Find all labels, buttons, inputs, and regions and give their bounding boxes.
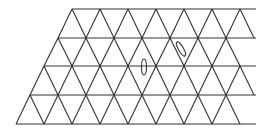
lattice-edge xyxy=(100,38,114,66)
lattice-edge xyxy=(226,95,240,124)
lattice-edge xyxy=(156,38,170,66)
lattice-edge xyxy=(72,95,86,124)
lattice-edge xyxy=(212,95,226,124)
lattice-edge xyxy=(184,95,198,124)
defect-ellipse xyxy=(175,41,187,57)
lattice-edge xyxy=(114,66,128,95)
lattice-edge xyxy=(240,66,254,95)
triangular-lattice-diagram xyxy=(0,0,272,134)
lattice-edge xyxy=(170,95,184,124)
lattice-edge xyxy=(128,9,142,38)
lattice-edge xyxy=(114,38,128,66)
lattice-edge xyxy=(226,66,240,95)
lattice-edge xyxy=(212,38,226,66)
lattice-edge xyxy=(30,66,44,95)
lattice-edge xyxy=(72,38,86,66)
lattice-edge xyxy=(226,38,240,66)
lattice-edge xyxy=(184,66,198,95)
lattice-edge xyxy=(72,66,86,95)
lattice-edge xyxy=(198,66,212,95)
lattice-edge xyxy=(100,66,114,95)
lattice-edge xyxy=(212,9,226,38)
lattice-edge xyxy=(58,66,72,95)
lattice-edge xyxy=(240,9,254,38)
lattice-edge xyxy=(100,9,114,38)
lattice-edge xyxy=(114,95,128,124)
lattice-edge xyxy=(58,9,72,38)
lattice-edge xyxy=(170,66,184,95)
lattice-edge xyxy=(156,9,170,38)
lattice-edge xyxy=(184,38,198,66)
lattice-edge xyxy=(142,9,156,38)
lattice-edge xyxy=(58,95,72,124)
lattice-edge xyxy=(198,38,212,66)
lattice-edge xyxy=(212,66,226,95)
lattice-edge xyxy=(142,66,156,95)
lattice-edge xyxy=(58,38,72,66)
lattice-edge xyxy=(142,38,156,66)
lattice-edge xyxy=(156,66,170,95)
lattice-edge xyxy=(198,95,212,124)
lattice-edge xyxy=(114,9,128,38)
lattice-edge xyxy=(142,95,156,124)
lattice-edge xyxy=(198,9,212,38)
lattice-edge xyxy=(86,66,100,95)
lattice-edge xyxy=(128,66,142,95)
lattice-edge xyxy=(156,95,170,124)
lattice-edge xyxy=(86,9,100,38)
lattice-svg xyxy=(0,0,272,134)
lattice-edge xyxy=(128,38,142,66)
lattice-edge xyxy=(16,95,30,124)
lattice-edge xyxy=(184,9,198,38)
lattice-edge xyxy=(72,9,86,38)
lattice-edge xyxy=(226,9,240,38)
lattice-edge xyxy=(86,38,100,66)
lattice-edge xyxy=(44,95,58,124)
lattice-edge xyxy=(170,9,184,38)
lattice-edge xyxy=(44,38,58,66)
lattice-edge xyxy=(86,95,100,124)
defect-ellipse xyxy=(142,59,147,75)
lattice-edge xyxy=(44,66,58,95)
lattice-edge xyxy=(30,95,44,124)
lattice-edge xyxy=(128,95,142,124)
lattice-edge xyxy=(100,95,114,124)
